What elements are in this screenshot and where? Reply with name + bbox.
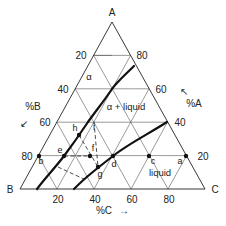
region-alpha-label: α xyxy=(86,71,92,82)
point-d xyxy=(111,154,115,158)
vertex-c-label: C xyxy=(211,184,218,195)
left-tick-40: 40 xyxy=(57,84,69,95)
axis-label-a: %A xyxy=(186,98,202,109)
region-alpha-liquid-label: α + liquid xyxy=(107,101,146,112)
point-label-f: f xyxy=(92,143,95,153)
point-label-b: b xyxy=(38,156,43,166)
point-a xyxy=(184,154,188,158)
axis-label-c: %C xyxy=(96,205,112,216)
axis-label-b: %B xyxy=(25,101,41,112)
bottom-tick-40: 40 xyxy=(89,194,101,205)
vertex-a-label: A xyxy=(109,7,116,18)
alpha-liquidus-boundary xyxy=(37,66,134,189)
right-tick-40: 40 xyxy=(174,117,186,128)
axis-arrow-c: → xyxy=(119,205,129,216)
point-label-a: a xyxy=(177,156,182,166)
point-label-d: d xyxy=(111,159,116,169)
left-tick-20: 20 xyxy=(75,50,87,61)
tie-line-h-g xyxy=(79,135,98,167)
point-label-g: g xyxy=(97,169,102,179)
ternary-diagram: A B C 20 40 60 80 80 60 40 20 20 40 60 8… xyxy=(0,0,226,226)
point-f xyxy=(88,154,92,158)
region-liquid-label: liquid xyxy=(149,167,171,178)
right-tick-20: 20 xyxy=(197,151,209,162)
point-label-h: h xyxy=(72,123,77,133)
left-tick-80: 80 xyxy=(21,151,33,162)
left-tick-60: 60 xyxy=(39,117,51,128)
point-label-e: e xyxy=(57,145,62,155)
axis-arrow-a: ↖ xyxy=(180,86,188,97)
axis-arrow-b: ↙ xyxy=(20,118,28,129)
vertex-b-label: B xyxy=(7,184,14,195)
bottom-tick-20: 20 xyxy=(52,194,64,205)
point-label-c: c xyxy=(151,156,156,166)
tie-line-lower xyxy=(58,167,86,180)
right-tick-60: 60 xyxy=(155,84,167,95)
point-label-i: i xyxy=(93,122,95,132)
right-tick-80: 80 xyxy=(136,50,148,61)
point-h xyxy=(77,133,81,137)
bottom-tick-60: 60 xyxy=(126,194,138,205)
bottom-tick-80: 80 xyxy=(163,194,175,205)
